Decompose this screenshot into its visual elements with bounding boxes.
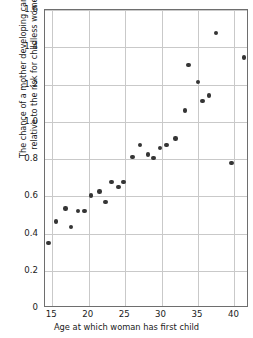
data-point (186, 63, 190, 67)
data-point (151, 156, 155, 160)
data-point (196, 80, 200, 84)
gridline-vertical (234, 10, 235, 306)
gridline-horizontal (45, 196, 247, 197)
x-tick-label: 40 (228, 309, 239, 319)
gridline-horizontal (45, 234, 247, 235)
gridline-vertical (162, 10, 163, 306)
gridline-horizontal (45, 10, 247, 11)
gridline-vertical (198, 10, 199, 306)
gridline-horizontal (45, 85, 247, 86)
data-point (173, 136, 177, 140)
gridline-horizontal (45, 122, 247, 123)
data-point (207, 93, 211, 97)
x-tick-label: 35 (192, 309, 203, 319)
data-point (46, 241, 50, 245)
x-tick-label: 25 (119, 309, 130, 319)
data-point (103, 200, 107, 204)
y-axis-title: The chance of a mother developing cancer… (18, 0, 40, 182)
gridline-vertical (89, 10, 90, 306)
data-point (214, 31, 218, 35)
gridline-horizontal (45, 47, 247, 48)
data-point (69, 225, 73, 229)
data-point (229, 161, 233, 165)
y-tick-label: 0 (0, 302, 38, 312)
data-point (97, 189, 101, 193)
data-point (54, 219, 58, 223)
data-point (200, 99, 204, 103)
data-point (130, 155, 134, 159)
y-tick-label: 0.4 (0, 228, 38, 238)
x-tick-label: 15 (46, 309, 57, 319)
data-point (164, 143, 168, 147)
gridline-vertical (52, 10, 53, 306)
data-point (116, 185, 120, 189)
x-axis-title: Age at which woman has first child (0, 322, 253, 332)
y-tick-label: 0.2 (0, 265, 38, 275)
data-point (82, 209, 86, 213)
data-point (183, 108, 187, 112)
gridline-horizontal (45, 271, 247, 272)
data-point (76, 209, 80, 213)
x-tick-label: 20 (82, 309, 93, 319)
scatter-chart-figure: The chance of a mother developing cancer… (0, 0, 253, 338)
gridline-vertical (125, 10, 126, 306)
plot-area (44, 9, 248, 307)
data-point (138, 143, 142, 147)
data-point (63, 206, 67, 210)
data-point (109, 180, 113, 184)
data-point (146, 152, 150, 156)
gridline-horizontal (45, 159, 247, 160)
data-point (242, 55, 246, 59)
x-tick-label: 30 (155, 309, 166, 319)
data-point (89, 193, 93, 197)
y-tick-label: 0.6 (0, 190, 38, 200)
